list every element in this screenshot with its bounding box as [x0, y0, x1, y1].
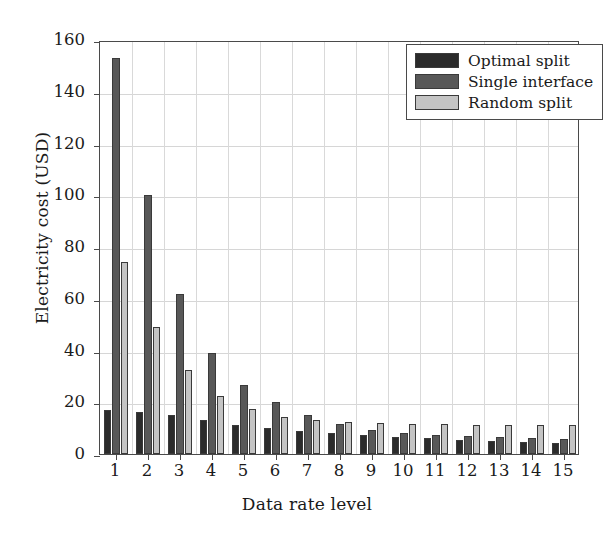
- bar: [200, 420, 208, 454]
- legend-label: Optimal split: [468, 52, 570, 70]
- bar: [360, 435, 368, 454]
- x-tick-mark: [180, 454, 181, 460]
- bar: [136, 412, 144, 454]
- x-tick-mark: [212, 454, 213, 460]
- x-tick-mark: [436, 454, 437, 460]
- bar: [272, 402, 280, 454]
- y-tick-label: 40: [0, 341, 85, 360]
- y-tick-label: 140: [0, 82, 85, 101]
- legend-swatch: [415, 74, 459, 89]
- x-tick-mark: [404, 454, 405, 460]
- bar: [520, 442, 528, 454]
- x-tick-mark: [308, 454, 309, 460]
- x-tick-mark: [372, 454, 373, 460]
- bar: [112, 58, 120, 454]
- x-tick-mark: [148, 454, 149, 460]
- bar: [104, 410, 112, 455]
- bar: [328, 433, 336, 454]
- x-tick-mark: [564, 454, 565, 460]
- bar: [185, 370, 193, 454]
- bar: [441, 424, 449, 454]
- y-tick-label: 0: [0, 444, 85, 463]
- bar: [464, 436, 472, 454]
- x-tick-mark: [468, 454, 469, 460]
- bar: [569, 425, 577, 454]
- bar: [345, 422, 353, 454]
- bar: [144, 195, 152, 454]
- x-tick-label: 15: [543, 461, 583, 480]
- bar: [552, 443, 560, 454]
- legend: Optimal splitSingle interfaceRandom spli…: [406, 44, 603, 120]
- y-tick-label: 20: [0, 392, 85, 411]
- bar: [264, 428, 272, 454]
- bar: [208, 353, 216, 454]
- bar: [313, 420, 321, 454]
- legend-swatch: [415, 95, 459, 110]
- bar: [304, 415, 312, 454]
- bar: [456, 440, 464, 454]
- legend-item: Random split: [415, 92, 593, 113]
- bar: [121, 262, 129, 455]
- legend-item: Optimal split: [415, 50, 593, 71]
- bar: [528, 438, 536, 454]
- y-tick-mark: [94, 456, 100, 457]
- x-tick-mark: [244, 454, 245, 460]
- y-tick-label: 120: [0, 134, 85, 153]
- bar: [424, 438, 432, 454]
- bar: [400, 433, 408, 454]
- bar: [409, 424, 417, 454]
- bar: [240, 385, 248, 454]
- x-tick-mark: [340, 454, 341, 460]
- x-axis-label: Data rate level: [0, 494, 614, 514]
- bar: [168, 415, 176, 454]
- y-tick-label: 60: [0, 289, 85, 308]
- bar: [432, 435, 440, 454]
- bar: [217, 396, 225, 454]
- bar: [176, 294, 184, 454]
- y-tick-label: 160: [0, 30, 85, 49]
- x-tick-mark: [532, 454, 533, 460]
- legend-swatch: [415, 53, 459, 68]
- bar: [496, 437, 504, 454]
- bar: [560, 439, 568, 454]
- bar: [488, 441, 496, 454]
- bar: [392, 437, 400, 454]
- bar: [296, 431, 304, 454]
- legend-label: Single interface: [468, 73, 593, 91]
- y-tick-label: 100: [0, 185, 85, 204]
- bar: [249, 409, 257, 454]
- bar: [473, 425, 481, 454]
- x-tick-mark: [500, 454, 501, 460]
- figure: Electricity cost (USD) Data rate level 0…: [0, 0, 614, 533]
- bar: [537, 425, 545, 454]
- bar: [281, 417, 289, 454]
- legend-label: Random split: [468, 94, 572, 112]
- legend-item: Single interface: [415, 71, 593, 92]
- bar: [153, 327, 161, 454]
- bar: [232, 425, 240, 454]
- x-tick-mark: [116, 454, 117, 460]
- y-tick-label: 80: [0, 237, 85, 256]
- bar: [368, 430, 376, 454]
- bar: [377, 423, 385, 454]
- x-tick-mark: [276, 454, 277, 460]
- bar: [505, 425, 513, 454]
- bar: [336, 424, 344, 454]
